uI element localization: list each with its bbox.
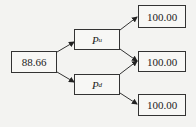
root-value: 88.66 (22, 56, 47, 68)
arrow-pu-to-top (120, 17, 137, 30)
arrow-root-to-pu (57, 42, 74, 52)
leaf-node-middle: 100.00 (138, 51, 186, 72)
leaf-node-top: 100.00 (138, 5, 186, 28)
arrow-root-to-pd (57, 72, 74, 82)
leaf-node-bottom: 100.00 (138, 94, 186, 116)
arrow-pu-to-mid (120, 49, 137, 61)
leaf-top-value: 100.00 (147, 11, 177, 23)
node-p-up-label: P (92, 34, 99, 46)
arrow-pd-to-bottom (120, 93, 137, 104)
leaf-middle-value: 100.00 (147, 56, 177, 68)
node-p-down-subscript: d (99, 81, 103, 89)
node-p-up: Pu (74, 29, 120, 50)
node-p-up-subscript: u (99, 36, 103, 44)
node-p-down-label: P (92, 79, 99, 91)
arrow-pd-to-mid (120, 61, 137, 74)
root-node: 88.66 (11, 51, 57, 73)
node-p-down: Pd (74, 74, 120, 95)
leaf-bottom-value: 100.00 (147, 99, 177, 111)
